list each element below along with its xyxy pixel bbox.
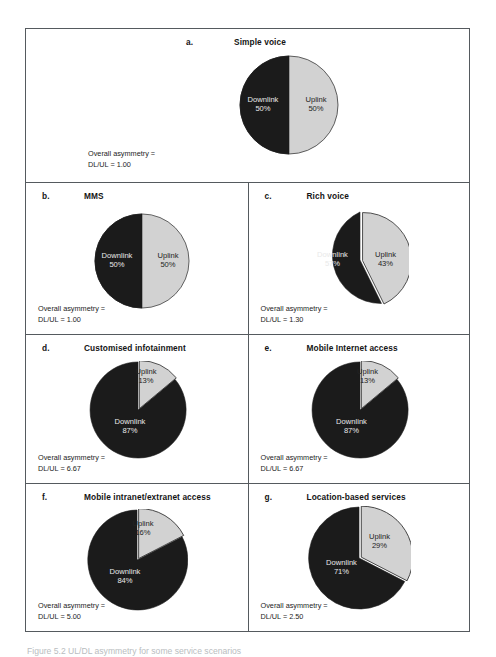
panel-heading: c. Rich voice (249, 191, 470, 201)
asymmetry-line-2: DL/UL = 2.50 (261, 612, 328, 622)
panel-mms: b. MMS Downlink 50% Uplink 50% (26, 183, 248, 334)
panel-heading: f. Mobile intranet/extranet access (26, 492, 248, 502)
asymmetry-line-1: Overall asymmetry = (38, 304, 105, 314)
pie-wrap: Uplink 29% Downlink 71% (307, 506, 411, 610)
asymmetry-line-2: DL/UL = 1.00 (88, 160, 155, 170)
panel-heading: b. MMS (26, 191, 248, 201)
pie-svg (94, 213, 190, 309)
pie-chart-simple-voice: Downlink 50% Uplink 50% (239, 55, 339, 155)
panel-customised-infotainment: d. Customised infotainment Uplink (26, 335, 248, 483)
panel-location-based-services: g. Location-based services Uplink (248, 484, 470, 631)
panel-letter: d. (42, 343, 84, 353)
pie-wrap: Downlink 50% Uplink 50% (94, 213, 190, 309)
asymmetry-caption: Overall asymmetry = DL/UL = 6.67 (261, 453, 328, 474)
asymmetry-line-1: Overall asymmetry = (261, 453, 328, 463)
pie-chart-mobile-intranet-extranet-access: Uplink 16% Downlink 84% (86, 509, 188, 611)
asymmetry-caption: Overall asymmetry = DL/UL = 1.00 (88, 149, 155, 170)
asymmetry-caption: Overall asymmetry = DL/UL = 1.00 (38, 304, 105, 325)
pie-wrap: Uplink 13% Downlink 87% (311, 361, 409, 459)
asymmetry-caption: Overall asymmetry = DL/UL = 5.00 (38, 601, 105, 622)
pie-svg (239, 55, 339, 155)
panel-letter: f. (42, 492, 84, 502)
panel-mobile-internet-access: e. Mobile Internet access Uplink 13% (248, 335, 470, 483)
panel-title: Customised infotainment (84, 343, 186, 353)
asymmetry-line-1: Overall asymmetry = (88, 149, 155, 159)
asymmetry-line-1: Overall asymmetry = (261, 601, 328, 611)
pie-svg (89, 361, 187, 459)
asymmetry-line-1: Overall asymmetry = (38, 453, 105, 463)
asymmetry-line-1: Overall asymmetry = (38, 601, 105, 611)
asymmetry-caption: Overall asymmetry = DL/UL = 1.30 (261, 304, 328, 325)
asymmetry-line-2: DL/UL = 1.30 (261, 315, 328, 325)
panel-rich-voice: c. Rich voice Downlink 57% (248, 183, 470, 334)
panel-title: MMS (84, 191, 104, 201)
pie-chart-location-based-services: Uplink 29% Downlink 71% (307, 506, 411, 610)
panel-title: Mobile intranet/extranet access (84, 492, 211, 502)
panel-simple-voice: a. Simple voice Downlink 50% Uplink 50% (26, 29, 469, 182)
panel-mobile-intranet-extranet-access: f. Mobile intranet/extranet access Uplin… (26, 484, 248, 631)
panel-heading: e. Mobile Internet access (249, 343, 470, 353)
panel-heading: g. Location-based services (249, 492, 470, 502)
panel-row-4: f. Mobile intranet/extranet access Uplin… (26, 483, 469, 631)
pie-svg (311, 361, 409, 459)
panel-row-3: d. Customised infotainment Uplink (26, 334, 469, 483)
pie-wrap: Downlink 50% Uplink 50% (239, 55, 339, 155)
pie-wrap: Uplink 13% Downlink 87% (89, 361, 187, 459)
pie-chart-mms: Downlink 50% Uplink 50% (94, 213, 190, 309)
pie-chart-customised-infotainment: Uplink 13% Downlink 87% (89, 361, 187, 459)
asymmetry-caption: Overall asymmetry = DL/UL = 6.67 (38, 453, 105, 474)
pie-wrap: Downlink 57% Uplink 43% (311, 211, 409, 309)
pie-chart-mobile-internet-access: Uplink 13% Downlink 87% (311, 361, 409, 459)
asymmetry-line-2: DL/UL = 6.67 (261, 464, 328, 474)
pie-svg (86, 509, 188, 611)
panel-title: Mobile Internet access (307, 343, 398, 353)
figure-caption: Figure 5.2 UL/DL asymmetry for some serv… (27, 646, 467, 657)
asymmetry-line-2: DL/UL = 1.00 (38, 315, 105, 325)
panel-letter: b. (42, 191, 84, 201)
panel-row-2: b. MMS Downlink 50% Uplink 50% (26, 182, 469, 334)
panel-letter: a. (186, 37, 234, 47)
figure-frame: a. Simple voice Downlink 50% Uplink 50% (25, 28, 470, 632)
pie-svg (311, 211, 409, 309)
panel-row-1: a. Simple voice Downlink 50% Uplink 50% (26, 29, 469, 182)
pie-wrap: Uplink 16% Downlink 84% (86, 509, 188, 611)
panel-letter: c. (265, 191, 307, 201)
pie-chart-rich-voice: Downlink 57% Uplink 43% (311, 211, 409, 309)
asymmetry-line-2: DL/UL = 5.00 (38, 612, 105, 622)
panel-heading: a. Simple voice (26, 37, 469, 47)
panel-title: Simple voice (234, 37, 286, 47)
asymmetry-line-1: Overall asymmetry = (261, 304, 328, 314)
asymmetry-caption: Overall asymmetry = DL/UL = 2.50 (261, 601, 328, 622)
panel-heading: d. Customised infotainment (26, 343, 248, 353)
panel-letter: g. (265, 492, 307, 502)
panel-title: Location-based services (307, 492, 406, 502)
asymmetry-line-2: DL/UL = 6.67 (38, 464, 105, 474)
panel-title: Rich voice (307, 191, 350, 201)
pie-svg (307, 506, 411, 610)
panel-letter: e. (265, 343, 307, 353)
